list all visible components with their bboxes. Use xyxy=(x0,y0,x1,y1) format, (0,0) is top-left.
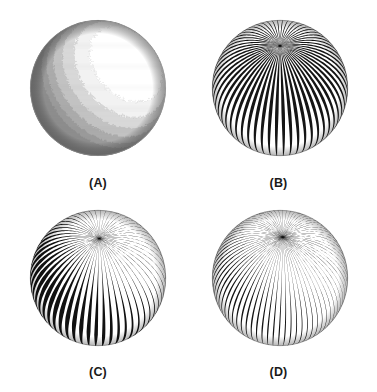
panel-c-label: (C) xyxy=(8,365,188,379)
panel-a-label: (A) xyxy=(8,176,188,190)
panel-d: (D) xyxy=(188,200,369,388)
panel-d-label: (D) xyxy=(188,365,369,379)
panel-c-graphic xyxy=(8,200,188,388)
panel-a-graphic xyxy=(8,8,188,196)
panel-c: (C) xyxy=(8,200,188,388)
figure-root: (A) (B) (C) (D) xyxy=(0,0,377,392)
panel-d-graphic xyxy=(188,200,369,388)
panel-b: (B) xyxy=(188,8,369,196)
panel-b-graphic xyxy=(188,8,369,196)
panel-a: (A) xyxy=(8,8,188,196)
panel-b-label: (B) xyxy=(188,176,369,190)
